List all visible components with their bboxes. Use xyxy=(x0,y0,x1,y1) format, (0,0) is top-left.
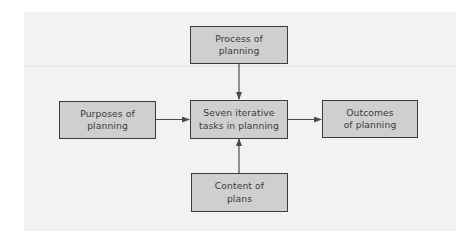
node-process-of-planning: Process of planning xyxy=(190,26,288,64)
node-seven-iterative-tasks: Seven iterative tasks in planning xyxy=(190,100,288,139)
node-label: Content of plans xyxy=(215,180,264,205)
node-label: Seven iterative tasks in planning xyxy=(199,107,279,132)
node-label: Purposes of planning xyxy=(80,108,135,133)
node-label: Outcomes of planning xyxy=(344,107,397,132)
node-content-of-plans: Content of plans xyxy=(191,173,288,212)
node-label: Process of planning xyxy=(215,33,263,58)
node-outcomes-of-planning: Outcomes of planning xyxy=(322,100,418,138)
node-purposes-of-planning: Purposes of planning xyxy=(59,101,156,139)
